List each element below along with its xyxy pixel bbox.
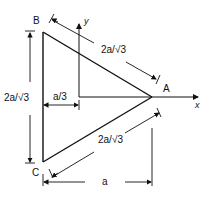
dim-tick-a2 bbox=[157, 108, 161, 117]
vertex-label-a: A bbox=[163, 83, 170, 94]
vertex-label-c: C bbox=[32, 167, 39, 178]
dim-label-bc: 2a/√3 bbox=[4, 92, 29, 103]
dim-label-ca: 2a/√3 bbox=[98, 134, 123, 145]
dim-line-ba-lower bbox=[126, 62, 156, 79]
axis-label-x: x bbox=[194, 100, 200, 110]
vertex-label-b: B bbox=[33, 15, 40, 26]
dim-line-ca-lower bbox=[54, 152, 94, 176]
axes bbox=[79, 24, 198, 97]
dim-label-a: a bbox=[102, 176, 108, 187]
dim-tick-b bbox=[49, 14, 54, 23]
triangle-diagram: B C A y x 2a/√3 2a/√3 2a/√3 a/3 a bbox=[0, 0, 212, 197]
side-ca bbox=[43, 97, 152, 162]
side-ba bbox=[43, 32, 152, 97]
dim-label-a3: a/3 bbox=[53, 91, 67, 102]
dim-label-ba: 2a/√3 bbox=[101, 44, 126, 55]
dim-tick-a bbox=[156, 75, 160, 84]
axis-label-y: y bbox=[83, 16, 89, 26]
dim-arrow-c bbox=[52, 173, 58, 177]
dim-line-ca-upper bbox=[125, 113, 159, 133]
